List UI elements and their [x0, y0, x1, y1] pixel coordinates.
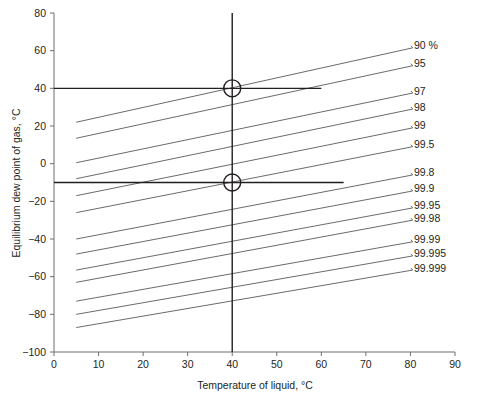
iso-line-99-9 [76, 191, 412, 254]
iso-line-99-95 [76, 208, 412, 270]
iso-leader-line [411, 64, 413, 66]
iso-line-98 [76, 109, 412, 179]
iso-label: 99.95 [414, 199, 440, 211]
iso-leader-line [411, 126, 413, 128]
x-tick-label: 10 [93, 358, 105, 370]
x-tick-label: 90 [449, 358, 461, 370]
iso-line-99-5 [76, 147, 412, 213]
x-axis-ticks: 0102030405060708090 [51, 352, 461, 370]
iso-line-99-99 [76, 242, 412, 301]
x-tick-label: 60 [315, 358, 327, 370]
chart-container: 806040200−20−40−60−80−100 01020304050607… [0, 0, 478, 397]
iso-leader-line [411, 145, 413, 147]
iso-label: 90 % [414, 39, 438, 51]
iso-line-99-999 [76, 270, 412, 327]
iso-label: 99.98 [414, 212, 440, 224]
y-tick-label: −80 [28, 308, 46, 320]
y-tick-label: 60 [34, 44, 46, 56]
iso-label: 99.9 [414, 182, 435, 194]
iso-leader-line [411, 173, 413, 175]
y-axis-ticks: 806040200−20−40−60−80−100 [22, 7, 54, 358]
iso-line-99-995 [76, 256, 412, 314]
iso-label: 99.995 [414, 247, 446, 259]
y-tick-label: −60 [28, 270, 46, 282]
iso-leader-line [411, 240, 413, 242]
iso-efficiency-labels: 90 %9597989999.599.899.999.9599.9899.999… [414, 39, 446, 273]
iso-label: 99.8 [414, 166, 435, 178]
x-tick-label: 20 [137, 358, 149, 370]
x-tick-label: 50 [271, 358, 283, 370]
iso-leader-line [411, 268, 413, 270]
iso-label: 98 [414, 101, 426, 113]
iso-label: 99.5 [414, 138, 435, 150]
iso-label: 99.99 [414, 233, 440, 245]
equilibrium-dew-point-chart: 806040200−20−40−60−80−100 01020304050607… [0, 0, 478, 397]
y-tick-label: 0 [40, 157, 46, 169]
x-axis-title: Temperature of liquid, °C [197, 379, 313, 391]
x-tick-label: 70 [360, 358, 372, 370]
iso-label: 99.999 [414, 262, 446, 274]
y-tick-label: 80 [34, 7, 46, 19]
iso-label-leaders [411, 46, 413, 270]
iso-label: 97 [414, 85, 426, 97]
iso-leader-line [411, 254, 413, 256]
y-tick-label: −40 [28, 233, 46, 245]
iso-efficiency-lines [76, 48, 412, 328]
iso-leader-line [411, 91, 413, 93]
y-tick-label: −100 [22, 346, 46, 358]
iso-line-90 [76, 48, 412, 122]
iso-leader-line [411, 206, 413, 208]
iso-leader-line [411, 218, 413, 220]
x-tick-label: 40 [226, 358, 238, 370]
x-tick-label: 80 [405, 358, 417, 370]
iso-leader-line [411, 46, 413, 48]
iso-leader-line [411, 107, 413, 109]
x-tick-label: 0 [51, 358, 57, 370]
iso-line-95 [76, 66, 412, 139]
y-tick-label: 40 [34, 82, 46, 94]
y-tick-label: 20 [34, 120, 46, 132]
iso-label: 95 [414, 57, 426, 69]
iso-line-97 [76, 93, 412, 163]
operating-guide-lines [54, 13, 344, 352]
x-tick-label: 30 [182, 358, 194, 370]
y-axis-title: Equilibrium dew point of gas, °C [10, 108, 22, 257]
iso-line-99 [76, 128, 412, 196]
iso-leader-line [411, 189, 413, 191]
iso-label: 99 [414, 119, 426, 131]
y-tick-label: −20 [28, 195, 46, 207]
